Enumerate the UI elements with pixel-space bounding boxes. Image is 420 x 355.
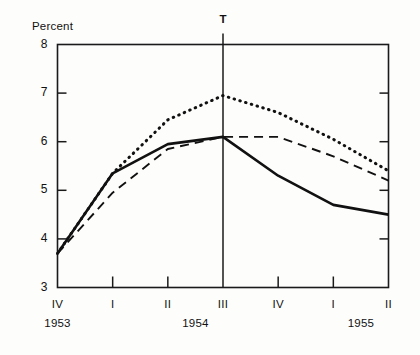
x-tick-label: IV xyxy=(38,298,78,310)
y-tick-label: 4 xyxy=(26,231,48,245)
y-tick-label: 6 xyxy=(26,134,48,148)
y-axis-title: Percent xyxy=(32,20,73,32)
x-tick-label: II xyxy=(369,298,409,310)
y-tick-label: 7 xyxy=(26,85,48,99)
year-label: 1954 xyxy=(170,317,220,329)
y-tick-label: 5 xyxy=(26,182,48,196)
x-tick-label: I xyxy=(313,298,353,310)
year-label: 1955 xyxy=(336,317,386,329)
y-tick-label: 3 xyxy=(26,280,48,294)
chart-figure: Percent 876543 IVIIIIIIIVIII 19531954195… xyxy=(0,0,420,355)
x-tick-label: I xyxy=(93,298,133,310)
x-tick-label: IV xyxy=(258,298,298,310)
x-tick-label: III xyxy=(203,298,243,310)
year-label: 1953 xyxy=(33,317,83,329)
y-tick-label: 8 xyxy=(26,37,48,51)
x-tick-label: II xyxy=(148,298,188,310)
reference-marker-label: T xyxy=(203,13,243,25)
